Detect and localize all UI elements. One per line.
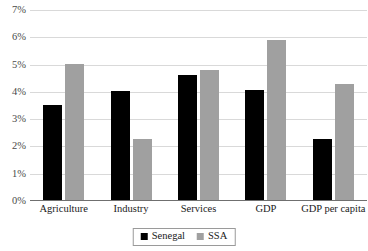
legend-swatch-icon bbox=[197, 233, 204, 240]
y-axis-tick-label: 1% bbox=[0, 168, 30, 179]
bar-group bbox=[30, 10, 97, 200]
y-axis-tick-label: 4% bbox=[0, 87, 30, 98]
legend-label: SSA bbox=[208, 231, 227, 242]
x-axis-label: GDP per capita bbox=[300, 203, 367, 216]
bar-chart: 7%6%5%4%3%2%1%0% AgricultureIndustryServ… bbox=[0, 0, 368, 251]
x-axis-category-labels: AgricultureIndustryServicesGDPGDP per ca… bbox=[30, 203, 367, 216]
y-axis-tick-label: 6% bbox=[0, 32, 30, 43]
bar-group bbox=[165, 10, 232, 200]
bar-group bbox=[300, 10, 367, 200]
y-axis-tick-label: 2% bbox=[0, 141, 30, 152]
y-axis-tick-label: 7% bbox=[0, 5, 30, 16]
y-axis-tick-label: 0% bbox=[0, 196, 30, 207]
x-axis-line bbox=[30, 200, 367, 201]
plot-area: 7%6%5%4%3%2%1%0% bbox=[30, 10, 367, 201]
bar-groups bbox=[30, 10, 367, 200]
legend-entry-senegal[interactable]: Senegal bbox=[141, 231, 185, 242]
y-axis-tick-label: 3% bbox=[0, 114, 30, 125]
bar-senegal bbox=[313, 139, 332, 200]
legend-swatch-icon bbox=[141, 233, 148, 240]
x-axis-label: GDP bbox=[232, 203, 299, 216]
x-axis-label: Industry bbox=[97, 203, 164, 216]
chart-legend: SenegalSSA bbox=[133, 228, 236, 246]
bar-senegal bbox=[245, 90, 264, 201]
bar-ssa bbox=[267, 40, 286, 200]
bar-ssa bbox=[133, 139, 152, 200]
bar-senegal bbox=[111, 91, 130, 200]
bar-group bbox=[232, 10, 299, 200]
y-axis-tick-label: 5% bbox=[0, 59, 30, 70]
bar-ssa bbox=[335, 84, 354, 200]
x-axis-label: Services bbox=[165, 203, 232, 216]
bar-senegal bbox=[43, 105, 62, 201]
bar-group bbox=[97, 10, 164, 200]
legend-label: Senegal bbox=[152, 231, 185, 242]
bar-ssa bbox=[65, 64, 84, 200]
x-axis-label: Agriculture bbox=[30, 203, 97, 216]
bar-senegal bbox=[178, 75, 197, 201]
bar-ssa bbox=[200, 70, 219, 200]
legend-entry-ssa[interactable]: SSA bbox=[197, 231, 227, 242]
